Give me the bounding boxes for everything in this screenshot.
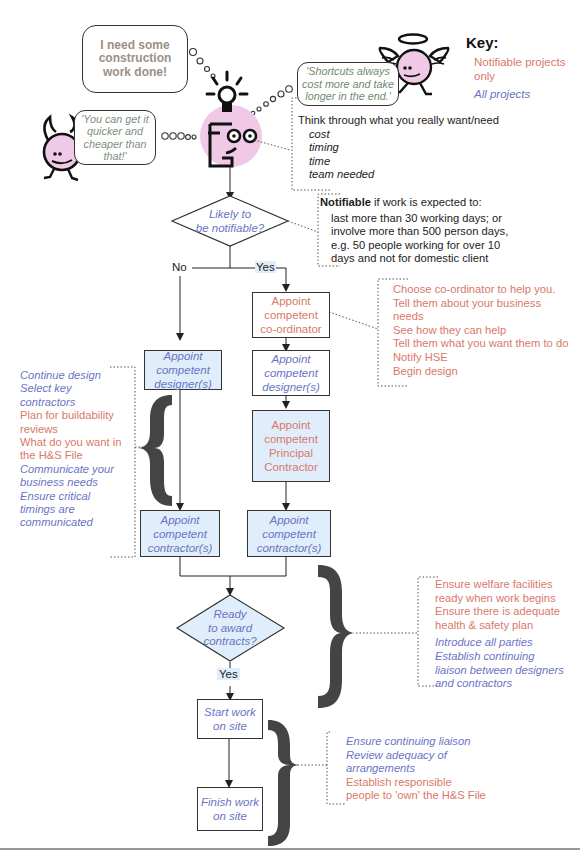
coordinator-note-line: Choose co-ordinator to help you. [393, 283, 568, 297]
design-note-item: reviews [20, 423, 121, 436]
key-all-projects: All projects [474, 87, 565, 101]
site-note-line: Ensure continuing liaison [346, 735, 486, 749]
box-appoint-coordinator: Appointcompetentco-ordinator [252, 292, 330, 338]
box-appoint-contractor-all: Appointcompetentcontractor(s) [140, 510, 220, 557]
design-note-item: contractors [20, 396, 121, 409]
devil-bubble-line: that!' [81, 150, 149, 163]
angel-bubble-line: 'Shortcuts always [302, 65, 394, 78]
coordinator-note-line: Begin design [393, 365, 568, 379]
client-bubble-line: construction [99, 52, 172, 66]
coordinator-note-line: Tell them what you want them to do [393, 337, 568, 351]
award-yes-label: Yes [217, 668, 240, 680]
design-note-item: Communicate your [20, 463, 121, 476]
angel-bubble-line: cost more and take [302, 78, 394, 91]
coordinator-note-line: Notify HSE [393, 351, 568, 365]
box-start-work-on-site: Start workon site [197, 699, 263, 739]
key-title: Key: [466, 34, 565, 51]
devil-bubble-line: 'You can get it [81, 113, 149, 126]
thought-dots-devil [162, 133, 196, 140]
notifiable-rest: if work is expected to: [371, 196, 482, 208]
coordinator-note-line: See how they can help [393, 324, 568, 338]
angel-speech-bubble: 'Shortcuts always cost more and take lon… [297, 62, 399, 106]
decision1-line: Likely to [180, 208, 280, 222]
client-bubble-line: I need some [99, 39, 172, 53]
thought-dots-angel [251, 86, 292, 115]
award-note-line: Ensure there is adequate [435, 605, 564, 619]
coordinator-note-line: needs [393, 310, 568, 324]
notifiable-criteria-note: Notifiable if work is expected to: last … [320, 196, 508, 266]
angel-bubble-line: longer in the end.' [302, 90, 394, 103]
coordinator-note-line: Tell them about your business [393, 297, 568, 311]
notifiable-line: e.g. 50 people working for over 10 [331, 239, 508, 253]
construction-phase-note: Ensure continuing liaison Review adequac… [346, 735, 486, 803]
yes-branch-label: Yes [255, 261, 276, 273]
decision1-line: be notifiable? [180, 222, 280, 236]
design-phase-note: Continue design Select key contractors P… [20, 369, 121, 530]
client-bubble-line: work done! [99, 66, 172, 80]
notifiable-line: days and not for domestic client [331, 252, 508, 266]
design-note-item: the H&S File [20, 449, 121, 462]
notifiable-bold: Notifiable [320, 196, 371, 208]
client-thought-bubble: I need some construction work done! [82, 25, 188, 93]
brace-site [268, 720, 300, 846]
notifiable-line: last more than 30 working days; or [331, 212, 508, 226]
site-note-line: Establish responsible [346, 776, 486, 790]
decision2-line: to award [180, 622, 280, 636]
design-note-item: communicated [20, 516, 121, 529]
design-note-item: Select key [20, 382, 121, 395]
key-notifiable-line2: only [474, 69, 565, 83]
devil-speech-bubble: 'You can get it quicker and cheaper than… [74, 110, 156, 165]
site-note-line: Review adequacy of [346, 749, 486, 763]
box-finish-work-on-site: Finish workon site [197, 787, 263, 831]
no-branch-label: No [172, 261, 187, 273]
award-note-line: ready when work begins [435, 592, 564, 606]
think-note-item: timing [309, 141, 499, 155]
decision2-line: contracts? [180, 635, 280, 649]
brace-award [318, 565, 356, 708]
design-note-item: business needs [20, 476, 121, 489]
think-note-item: team needed [309, 168, 499, 182]
think-note-heading: Think through what you really want/need [298, 114, 499, 128]
key-legend: Key: Notifiable projects only All projec… [466, 34, 565, 101]
box-appoint-principal-contractor: AppointcompetentPrincipalContractor [252, 410, 330, 482]
award-note-line: Introduce all parties [435, 636, 564, 650]
brace-design [137, 395, 172, 506]
award-note-line: Ensure welfare facilities [435, 578, 564, 592]
decision2-line: Ready [180, 608, 280, 622]
box-appoint-designer-notifiable: Appointcompetentdesigner(s) [252, 350, 330, 396]
design-note-item: timings are [20, 503, 121, 516]
site-note-line: arrangements [346, 762, 486, 776]
thought-dots-client [190, 49, 216, 79]
box-appoint-contractor-notifiable: Appointcompetentcontractor(s) [247, 510, 331, 557]
think-note-item: time [309, 155, 499, 169]
award-note-line: health & safety plan [435, 619, 564, 633]
design-note-item: Continue design [20, 369, 121, 382]
pre-construction-note: Ensure welfare facilities ready when wor… [435, 578, 564, 691]
award-note-line: liaison between designers [435, 664, 564, 678]
think-note-item: cost [309, 128, 499, 142]
think-through-note: Think through what you really want/need … [298, 114, 499, 182]
design-note-item: What do you want in [20, 436, 121, 449]
devil-bubble-line: quicker and [81, 125, 149, 138]
decision1-label: Likely to be notifiable? [180, 208, 280, 235]
design-note-item: Plan for buildability [20, 409, 121, 422]
devil-bubble-line: cheaper than [81, 138, 149, 151]
award-note-line: and contractors [435, 677, 564, 691]
thinker-illustration [200, 72, 262, 167]
notifiable-line: involve more than 500 person days, [331, 225, 508, 239]
decision2-label: Ready to award contracts? [180, 608, 280, 649]
site-note-line: people to 'own' the H&S File [346, 789, 486, 803]
coordinator-note: Choose co-ordinator to help you. Tell th… [393, 283, 568, 378]
design-note-item: Ensure critical [20, 490, 121, 503]
box-appoint-designer-all: Appointcompetentdesigner(s) [144, 350, 222, 390]
key-notifiable-line1: Notifiable projects [474, 55, 565, 69]
award-note-line: Establish continuing [435, 650, 564, 664]
